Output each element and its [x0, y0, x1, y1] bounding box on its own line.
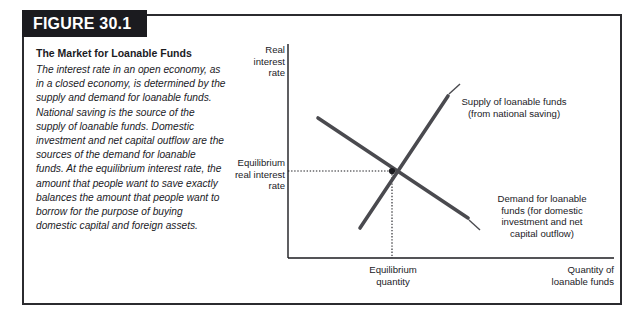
caption-block: The Market for Loanable Funds The intere… — [36, 46, 226, 233]
figure-title: The Market for Loanable Funds — [36, 46, 226, 60]
supply-curve-annotation: Supply of loanable funds (from national … — [434, 96, 594, 119]
figure-number-banner: FIGURE 30.1 — [22, 10, 147, 37]
chart-svg — [228, 36, 622, 298]
supply-leader-line — [449, 84, 460, 94]
equilibrium-rate-label: Equilibrium real interest rate — [220, 157, 285, 192]
demand-curve — [318, 118, 468, 218]
figure-number-label: FIGURE 30.1 — [33, 15, 131, 33]
figure-container: FIGURE 30.1 The Market for Loanable Fund… — [0, 0, 641, 327]
demand-curve-annotation: Demand for loanable funds (for domestic … — [472, 193, 612, 239]
equilibrium-quantity-label: Equilibrium quantity — [338, 264, 448, 287]
x-axis-title: Quantity of loanable funds — [486, 264, 614, 287]
equilibrium-point — [389, 168, 395, 174]
figure-caption-text: The interest rate in an open economy, as… — [36, 63, 226, 233]
y-axis-title: Real interest rate — [228, 44, 285, 79]
loanable-funds-chart: Real interest rate Equilibrium real inte… — [228, 36, 622, 298]
